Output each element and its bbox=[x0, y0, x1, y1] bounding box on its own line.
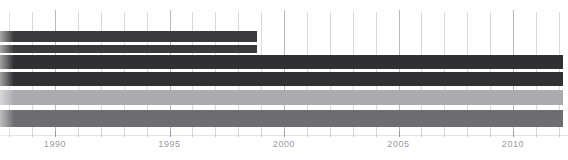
x-tick-minor bbox=[101, 133, 102, 137]
bar-2[interactable] bbox=[0, 45, 257, 53]
x-tick-minor bbox=[124, 133, 125, 137]
x-tick-minor bbox=[261, 133, 262, 137]
x-tick-label: 1995 bbox=[158, 139, 180, 149]
bar-4[interactable] bbox=[0, 72, 563, 86]
x-tick-minor bbox=[307, 133, 308, 137]
x-tick-minor bbox=[421, 133, 422, 137]
x-tick-major bbox=[399, 131, 400, 137]
x-tick-major bbox=[513, 131, 514, 137]
x-tick-minor bbox=[147, 133, 148, 137]
x-tick-minor bbox=[215, 133, 216, 137]
x-tick-minor bbox=[32, 133, 33, 137]
x-tick-minor bbox=[490, 133, 491, 137]
x-tick-minor bbox=[444, 133, 445, 137]
x-tick-major bbox=[284, 131, 285, 137]
x-tick-minor bbox=[467, 133, 468, 137]
x-tick-minor bbox=[536, 133, 537, 137]
bar-5[interactable] bbox=[0, 90, 563, 105]
x-tick-minor bbox=[78, 133, 79, 137]
x-tick-minor bbox=[559, 133, 560, 137]
x-tick-minor bbox=[238, 133, 239, 137]
x-tick-minor bbox=[9, 133, 10, 137]
x-tick-minor bbox=[330, 133, 331, 137]
x-tick-label: 2010 bbox=[502, 139, 524, 149]
x-tick-major bbox=[170, 131, 171, 137]
x-tick-minor bbox=[376, 133, 377, 137]
x-tick-label: 2005 bbox=[387, 139, 409, 149]
bar-3[interactable] bbox=[0, 55, 563, 69]
x-tick-label: 1990 bbox=[44, 139, 66, 149]
x-tick-minor bbox=[353, 133, 354, 137]
x-tick-minor bbox=[192, 133, 193, 137]
plot-area bbox=[0, 0, 568, 136]
bar-1[interactable] bbox=[0, 31, 257, 42]
x-tick-label: 2000 bbox=[273, 139, 295, 149]
bar-6[interactable] bbox=[0, 110, 563, 127]
bar-chart: 19901995200020052010 bbox=[0, 0, 568, 160]
x-tick-major bbox=[55, 131, 56, 137]
